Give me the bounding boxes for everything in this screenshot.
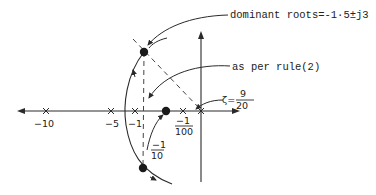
locus-direction-arrow-icon bbox=[133, 70, 135, 77]
label-zeta-symbol: ζ= bbox=[222, 94, 235, 105]
dominant-root-upper bbox=[140, 48, 148, 56]
real-axis bbox=[17, 108, 240, 114]
callout-zeta bbox=[196, 100, 223, 109]
callout-rule bbox=[149, 66, 230, 98]
dominant-root-lower bbox=[139, 164, 147, 172]
root-locus-diagram: dominant roots=-1·5±j3 as per rule(2) ζ=… bbox=[0, 0, 376, 195]
tick-label-minus-5: −5 bbox=[105, 118, 119, 129]
diagram-svg: dominant roots=-1·5±j3 as per rule(2) ζ=… bbox=[0, 0, 376, 195]
arrow-left-icon bbox=[17, 108, 25, 114]
locus-direction-arrow-icon bbox=[150, 177, 156, 180]
label-minus-1-10-den: 10 bbox=[151, 150, 163, 161]
callout-tick bbox=[149, 38, 167, 48]
real-closed-loop-root bbox=[162, 107, 170, 115]
arrow-up-icon bbox=[198, 31, 204, 39]
label-dominant-roots: dominant roots=-1·5±j3 bbox=[230, 9, 369, 21]
dominant-roots-vertical bbox=[143, 52, 144, 168]
tick-label-minus-10: −10 bbox=[34, 118, 54, 129]
label-zeta-num: 9 bbox=[240, 88, 246, 99]
tick-label-minus-1-100-den: 100 bbox=[175, 126, 193, 137]
tick-label-minus-1: −1 bbox=[128, 118, 142, 129]
label-zeta-den: 20 bbox=[236, 100, 248, 111]
label-minus-1-10-num: −1 bbox=[152, 139, 166, 150]
label-rule: as per rule(2) bbox=[232, 61, 320, 73]
tick-label-minus-1-100-num: −1 bbox=[176, 115, 190, 126]
